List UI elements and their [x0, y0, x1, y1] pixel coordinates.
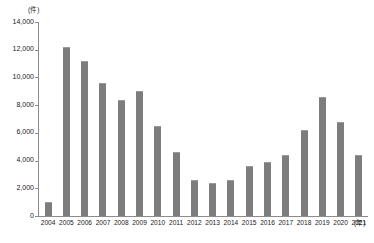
bar [173, 152, 180, 216]
x-axis-unit-label: (年) [354, 220, 365, 227]
plot-area [38, 22, 368, 216]
y-axis-tick-label: 0 [0, 212, 34, 219]
bar [99, 83, 106, 216]
y-axis-tick-label: 8,000 [0, 101, 34, 108]
bar [337, 122, 344, 216]
bar [301, 130, 308, 216]
bar [246, 166, 253, 216]
bar [264, 162, 271, 216]
bar [136, 91, 143, 216]
bar [63, 47, 70, 216]
bar [282, 155, 289, 216]
y-axis-tick-mark [35, 216, 39, 217]
bar [154, 126, 161, 216]
y-axis-tick-label: 10,000 [0, 73, 34, 80]
y-axis-tick-label: 12,000 [0, 45, 34, 52]
bar [191, 180, 198, 216]
y-axis-tick-label: 4,000 [0, 156, 34, 163]
bar [45, 202, 52, 216]
bar [118, 100, 125, 216]
x-axis-line [38, 216, 368, 217]
bar [209, 183, 216, 216]
y-axis-tick-label: 6,000 [0, 128, 34, 135]
bar [355, 155, 362, 216]
bar-chart: (件) 14,00012,00010,0008,0006,0004,0002,0… [0, 0, 374, 243]
bar [81, 61, 88, 216]
bar [227, 180, 234, 216]
y-axis-tick-label: 14,000 [0, 18, 34, 25]
bar [319, 97, 326, 216]
y-axis-tick-label: 2,000 [0, 184, 34, 191]
y-axis-unit-label: (件) [28, 7, 39, 14]
